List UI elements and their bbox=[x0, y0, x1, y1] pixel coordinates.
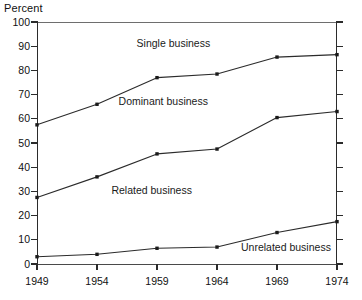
data-point-marker bbox=[35, 255, 38, 258]
data-point-marker bbox=[155, 76, 158, 79]
data-point-marker bbox=[215, 147, 218, 150]
data-point-marker bbox=[335, 220, 338, 223]
data-point-marker bbox=[95, 175, 98, 178]
data-point-marker bbox=[35, 196, 38, 199]
series-line bbox=[37, 222, 337, 257]
data-point-marker bbox=[155, 152, 158, 155]
series-line bbox=[37, 55, 337, 125]
series-line bbox=[37, 112, 337, 198]
data-point-marker bbox=[95, 103, 98, 106]
series-lines bbox=[0, 0, 362, 300]
data-point-marker bbox=[275, 55, 278, 58]
data-point-marker bbox=[335, 53, 338, 56]
data-point-marker bbox=[275, 116, 278, 119]
data-point-marker bbox=[35, 123, 38, 126]
data-point-marker bbox=[215, 72, 218, 75]
percent-line-chart: Percent 0102030405060708090100 194919541… bbox=[0, 0, 362, 300]
data-point-marker bbox=[275, 231, 278, 234]
data-point-marker bbox=[215, 245, 218, 248]
data-point-marker bbox=[95, 253, 98, 256]
data-point-marker bbox=[335, 110, 338, 113]
data-point-marker bbox=[155, 247, 158, 250]
